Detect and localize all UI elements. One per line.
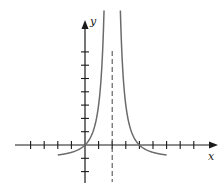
x-axis-arrow-icon <box>209 142 218 149</box>
y-axis-arrow-icon <box>82 20 89 29</box>
x-axis-label: x <box>208 150 215 163</box>
function-graph: y x <box>0 0 223 192</box>
curve-left-branch <box>58 11 104 155</box>
curve-right-branch <box>120 11 166 155</box>
y-axis-label: y <box>89 15 97 28</box>
